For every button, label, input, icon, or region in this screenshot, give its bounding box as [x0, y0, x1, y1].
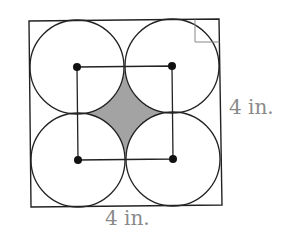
right-angle-box — [195, 20, 220, 43]
center-dot — [168, 62, 176, 70]
shaded-area — [78, 67, 173, 160]
side-length-label-right: 4 in. — [229, 97, 274, 117]
center-dot — [73, 63, 81, 71]
shaded-region — [78, 67, 173, 160]
center-dot — [74, 156, 82, 164]
right-angle-marker — [195, 20, 220, 43]
side-length-label-bottom: 4 in. — [105, 208, 150, 228]
center-dot — [169, 155, 177, 163]
